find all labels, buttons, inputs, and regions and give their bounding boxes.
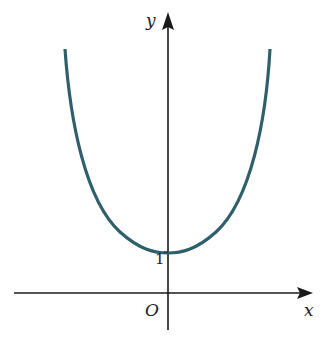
function-graph: y x O 1 — [0, 0, 333, 340]
y-axis-label: y — [145, 10, 156, 30]
graph-canvas: y x O 1 — [0, 0, 333, 340]
x-axis-label: x — [304, 300, 314, 320]
origin-label: O — [145, 300, 159, 320]
y-intercept-label: 1 — [155, 250, 165, 268]
